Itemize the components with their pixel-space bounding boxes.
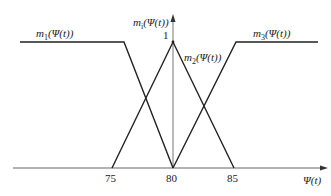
label-peak-one: 1	[163, 30, 169, 41]
label-m3-arg: (Ψ(t))	[265, 27, 290, 39]
label-m3: m3(Ψ(t))	[253, 28, 290, 42]
x-axis-arrow-icon	[320, 166, 328, 171]
label-m1-arg: (Ψ(t))	[48, 27, 73, 39]
label-m2-arg: (Ψ(t))	[196, 51, 221, 63]
label-m2: m2(Ψ(t))	[184, 52, 221, 66]
x-axis-label: Ψ(t)	[303, 175, 321, 186]
tick-85: 85	[227, 173, 238, 184]
tick-75: 75	[105, 173, 116, 184]
peak-point	[172, 41, 175, 44]
label-m1: m1(Ψ(t))	[36, 28, 73, 42]
label-m2-symbol: m	[184, 51, 192, 63]
label-mi-symbol: m	[133, 16, 141, 28]
label-m1-symbol: m	[36, 27, 44, 39]
tick-80: 80	[166, 173, 177, 184]
curve-m1	[20, 42, 173, 168]
label-m3-symbol: m	[253, 27, 261, 39]
y-axis-arrow-icon	[171, 14, 176, 22]
label-mi-arg: (Ψ(t))	[143, 16, 168, 28]
